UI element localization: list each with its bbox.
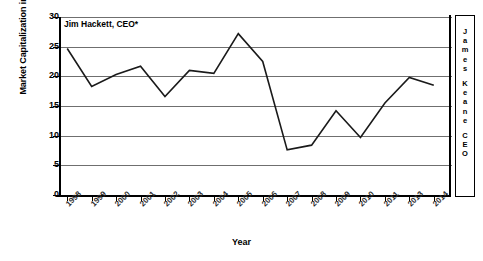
annotation-char: E — [456, 140, 474, 149]
y-tick-label: 0 — [5, 189, 59, 199]
y-tick-label: 20 — [5, 70, 59, 80]
annotation-char: s — [456, 64, 474, 73]
annotation-char: a — [456, 97, 474, 106]
annotation-char: K — [456, 79, 474, 88]
y-tick-label: 10 — [5, 130, 59, 140]
annotation-char: e — [456, 116, 474, 125]
annotation-char: a — [456, 36, 474, 45]
x-axis-title: Year — [0, 237, 483, 247]
annotation-char: O — [456, 149, 474, 158]
annotation-char: e — [456, 55, 474, 64]
annotation-char: C — [456, 131, 474, 140]
annotation-char: n — [456, 107, 474, 116]
annotation-char: e — [456, 88, 474, 97]
annotation-char: J — [456, 27, 474, 36]
annotation-jim-hackett: Jim Hackett, CEO* — [64, 19, 138, 29]
chart-canvas: Market Capitalization in Billions (USD) … — [0, 0, 483, 261]
annotation-char: m — [456, 45, 474, 54]
y-tick-label: 5 — [5, 159, 59, 169]
y-tick-label: 30 — [5, 11, 59, 21]
series-market-capitalization — [59, 17, 450, 195]
y-tick-label: 15 — [5, 100, 59, 110]
y-axis-ticks: 051015202530 — [0, 0, 59, 200]
annotation-james-keane: JamesKeaneCEO — [456, 27, 474, 159]
y-tick-label: 25 — [5, 41, 59, 51]
